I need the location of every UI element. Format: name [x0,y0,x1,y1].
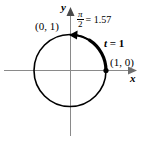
y-axis [67,7,75,136]
figure-canvas [0,0,146,141]
point-marker-1-0 [103,68,108,73]
parameter-equals-value: = 1 [107,37,124,49]
point-label-1-0: (1, 0) [110,57,134,68]
parameter-label-t: t = 1 [104,38,124,49]
y-axis-label: y [61,2,66,13]
fraction-pi-over-2: π 2 [77,10,84,29]
arc-length-value: = 1.57 [86,15,112,25]
arc-length-label: π 2 = 1.57 [77,10,111,29]
unit-circle-figure: y x (0, 1) (1, 0) t = 1 π 2 = 1.57 [0,0,146,141]
fraction-denominator: 2 [77,20,84,29]
fraction-numerator: π [77,10,84,19]
direction-arc-arrow [69,31,89,41]
point-label-0-1: (0, 1) [35,21,59,32]
x-axis-label: x [130,73,136,84]
